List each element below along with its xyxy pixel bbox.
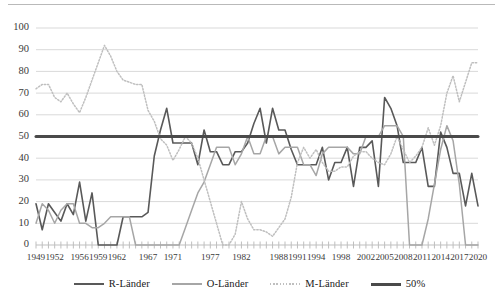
svg-text:1967: 1967 [139, 252, 158, 262]
series-line-m-l-nder [36, 45, 478, 245]
legend-label: O-Länder [207, 278, 249, 289]
svg-text:90: 90 [19, 43, 30, 54]
svg-text:2008: 2008 [394, 252, 413, 262]
series-line-o-l-nder [36, 126, 478, 245]
svg-text:1977: 1977 [201, 252, 220, 262]
legend-swatch-icon [270, 283, 300, 285]
legend-swatch-icon [172, 283, 202, 285]
chart-svg: 0102030405060708090100 19491952195619591… [0, 0, 499, 262]
data-series-layer [36, 45, 478, 245]
svg-text:1988: 1988 [270, 252, 289, 262]
svg-text:20: 20 [19, 195, 30, 206]
svg-text:1949: 1949 [27, 252, 46, 262]
svg-text:2002: 2002 [357, 252, 376, 262]
svg-text:100: 100 [13, 21, 29, 32]
legend-item-r-l-nder[interactable]: R-Länder [74, 278, 150, 289]
svg-text:1994: 1994 [307, 252, 326, 262]
svg-text:1959: 1959 [89, 252, 108, 262]
svg-text:10: 10 [19, 217, 30, 228]
svg-text:40: 40 [19, 152, 30, 163]
svg-text:2020: 2020 [469, 252, 488, 262]
svg-text:2011: 2011 [413, 252, 431, 262]
x-axis-tick-labels: 1949195219561959196219671971197719821988… [27, 252, 488, 262]
svg-text:0: 0 [24, 238, 29, 249]
legend-label: M-Länder [305, 278, 348, 289]
svg-text:50: 50 [19, 130, 30, 141]
legend-item-m-l-nder[interactable]: M-Länder [270, 278, 348, 289]
svg-text:1952: 1952 [45, 252, 64, 262]
svg-text:1982: 1982 [232, 252, 251, 262]
legend-label: 50% [406, 278, 426, 289]
svg-text:1998: 1998 [332, 252, 351, 262]
svg-text:2005: 2005 [375, 252, 394, 262]
svg-text:70: 70 [19, 87, 30, 98]
legend-swatch-icon [74, 283, 104, 285]
svg-text:1971: 1971 [164, 252, 183, 262]
chart-container: 0102030405060708090100 19491952195619591… [0, 0, 499, 300]
svg-text:60: 60 [19, 108, 30, 119]
chart-legend: R-LänderO-LänderM-Länder50% [0, 272, 499, 294]
legend-label: R-Länder [109, 278, 150, 289]
legend-item-50[interactable]: 50% [371, 278, 426, 289]
svg-text:1962: 1962 [108, 252, 127, 262]
legend-swatch-icon [371, 283, 401, 286]
plot-area: 0102030405060708090100 19491952195619591… [0, 0, 499, 262]
legend-item-o-l-nder[interactable]: O-Länder [172, 278, 249, 289]
svg-text:80: 80 [19, 65, 30, 76]
svg-text:1991: 1991 [288, 252, 307, 262]
svg-text:1956: 1956 [70, 252, 89, 262]
svg-text:2017: 2017 [450, 252, 469, 262]
svg-text:2014: 2014 [431, 252, 450, 262]
y-axis-tick-labels: 0102030405060708090100 [13, 21, 29, 249]
svg-text:30: 30 [19, 173, 30, 184]
